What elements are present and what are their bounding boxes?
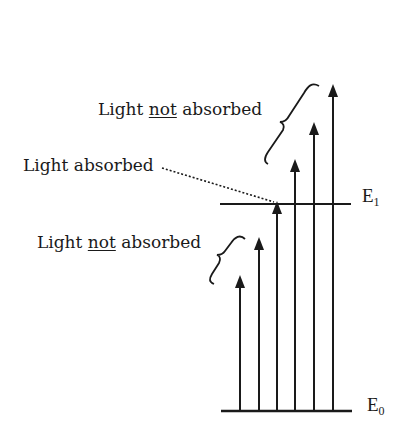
upper-brace — [265, 84, 319, 164]
label-emphasis: not — [88, 232, 116, 252]
arrow-6-head — [328, 84, 338, 97]
absorbed-leader-line — [162, 168, 274, 202]
energy-level-e1-label: E1 — [362, 186, 380, 208]
label-text: Light — [37, 232, 88, 252]
arrow-5-head — [309, 122, 319, 135]
diagram-graphic — [0, 0, 402, 444]
level-subscript: 0 — [379, 404, 385, 418]
energy-level-diagram: Light not absorbed Light absorbed Light … — [0, 0, 402, 444]
arrow-1-head — [235, 275, 245, 288]
level-symbol: E — [362, 185, 374, 206]
arrow-2-head — [254, 237, 264, 250]
energy-level-e0-label: E0 — [367, 395, 385, 417]
label-light-not-absorbed-upper: Light not absorbed — [98, 101, 262, 118]
label-emphasis: not — [149, 99, 177, 119]
label-text: Light — [98, 99, 149, 119]
level-symbol: E — [367, 394, 379, 415]
label-light-absorbed: Light absorbed — [23, 157, 154, 174]
label-text: absorbed — [116, 232, 201, 252]
level-subscript: 1 — [374, 195, 380, 209]
arrow-4-head — [290, 159, 300, 172]
arrow-3-head — [272, 201, 282, 214]
label-text: absorbed — [177, 99, 262, 119]
label-light-not-absorbed-lower: Light not absorbed — [37, 234, 201, 251]
